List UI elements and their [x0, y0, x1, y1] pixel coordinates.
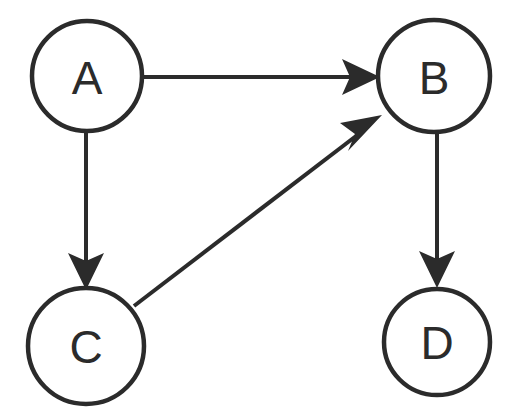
node-c-label: C [69, 321, 102, 373]
node-b-label: B [419, 52, 450, 104]
edge-a-to-b[interactable] [142, 59, 380, 95]
node-c[interactable]: C [28, 288, 144, 404]
edge-c-to-b[interactable] [134, 115, 382, 306]
node-d[interactable]: D [384, 289, 490, 395]
node-a-label: A [72, 52, 103, 104]
edge-b-to-d[interactable] [419, 131, 455, 288]
node-d-label: D [420, 317, 453, 369]
directed-graph: A B C D [0, 0, 519, 420]
node-a[interactable]: A [32, 21, 142, 131]
edge-a-to-c[interactable] [68, 131, 104, 290]
edge-c-to-b-line [134, 133, 360, 306]
diagram-canvas: A B C D [0, 0, 519, 420]
node-b[interactable]: B [378, 20, 490, 132]
